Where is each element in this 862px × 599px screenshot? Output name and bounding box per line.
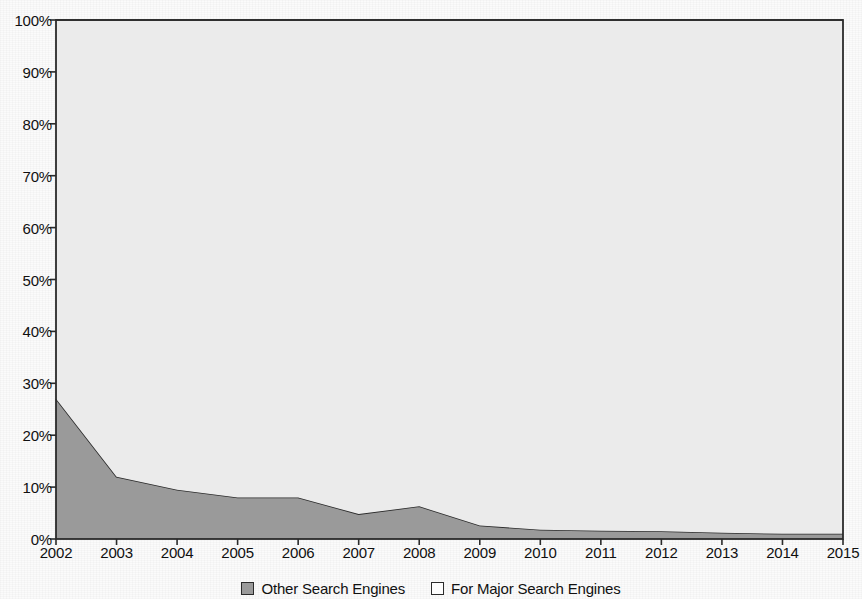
x-axis-tick-label: 2007 [331,545,387,560]
x-axis-tick-label: 2013 [694,545,750,560]
y-axis-tick-label: 10% [6,480,52,495]
x-axis-tick-label: 2003 [89,545,145,560]
y-axis-tick-label: 40% [6,324,52,339]
series-areas [56,20,843,539]
legend-swatch-icon [431,582,444,595]
legend-label: Other Search Engines [261,581,405,596]
y-axis-tick-label: 70% [6,169,52,184]
x-axis-tick-label: 2009 [452,545,508,560]
y-axis-tick-label: 60% [6,221,52,236]
y-axis-tick-label: 30% [6,376,52,391]
legend-entry: Other Search Engines [241,581,405,596]
legend-label: For Major Search Engines [451,581,620,596]
y-axis-tick-label: 80% [6,117,52,132]
x-axis-tick-label: 2015 [815,545,862,560]
x-axis-tick-label: 2014 [754,545,810,560]
x-axis-tick-label: 2002 [28,545,84,560]
x-axis-labels: 2002200320042005200620072008200920102011… [0,545,862,567]
y-axis-labels: 100%90%80%70%60%50%40%30%20%10%0% [0,0,52,599]
chart-plot-svg [0,0,862,599]
stacked-area-chart: 100%90%80%70%60%50%40%30%20%10%0% 200220… [0,0,862,599]
x-axis-tick-label: 2010 [512,545,568,560]
x-axis-tick-label: 2006 [270,545,326,560]
x-axis-tick-label: 2012 [633,545,689,560]
x-axis-tick-label: 2004 [149,545,205,560]
legend-swatch-icon [241,582,254,595]
y-axis-tick-label: 50% [6,273,52,288]
x-axis-tick-label: 2011 [573,545,629,560]
y-axis-tick-label: 20% [6,428,52,443]
legend-entry: For Major Search Engines [431,581,620,596]
scanned-page: 100%90%80%70%60%50%40%30%20%10%0% 200220… [0,0,862,599]
chart-legend: Other Search EnginesFor Major Search Eng… [0,578,862,599]
y-axis-tick-label: 100% [6,13,52,28]
y-axis-tick-label: 90% [6,65,52,80]
x-axis-tick-label: 2005 [210,545,266,560]
x-axis-tick-label: 2008 [391,545,447,560]
